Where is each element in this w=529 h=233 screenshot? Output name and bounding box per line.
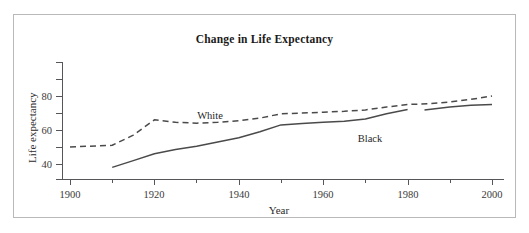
- series-label-black: Black: [358, 133, 383, 144]
- figure-frame: Change in Life Expectancy 80 60 40 Life …: [13, 14, 516, 218]
- series-label-white: White: [197, 110, 223, 121]
- y-axis-title: Life expectancy: [26, 92, 38, 163]
- series-line-white: [70, 96, 492, 147]
- x-tick-label-1940: 1940: [229, 189, 250, 200]
- series-line-black-segment-2: [425, 105, 493, 110]
- x-tick-label-1900: 1900: [60, 189, 81, 200]
- series-layer: [70, 96, 492, 167]
- x-tick-label-1920: 1920: [144, 189, 165, 200]
- y-tick-label-60: 60: [42, 125, 53, 136]
- x-tick-label-1960: 1960: [313, 189, 334, 200]
- y-tick-label-40: 40: [42, 159, 53, 170]
- x-axis-ticks: [70, 179, 492, 185]
- line-chart-plot: 80 60 40 Life expectancy 1900 1920 1940 …: [14, 15, 517, 219]
- y-tick-label-80: 80: [42, 91, 53, 102]
- x-tick-label-1980: 1980: [398, 189, 419, 200]
- x-axis-title: Year: [269, 204, 290, 216]
- y-axis-ticks: [56, 62, 62, 179]
- x-tick-label-2000: 2000: [482, 189, 503, 200]
